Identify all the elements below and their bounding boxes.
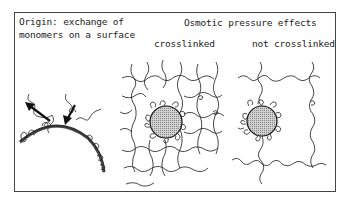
free-chains xyxy=(232,62,326,184)
particle-not-crosslinked xyxy=(238,100,281,141)
diagram-drawing xyxy=(0,0,350,200)
outgoing-arrow xyxy=(25,102,50,121)
incoming-arrow xyxy=(63,105,75,125)
adsorbed-chains xyxy=(21,122,105,170)
particle-crosslinked xyxy=(145,101,186,143)
curved-surface xyxy=(20,126,104,174)
